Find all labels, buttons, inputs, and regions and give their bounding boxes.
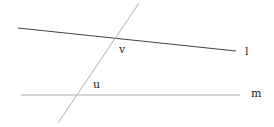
label-l: l xyxy=(245,46,249,57)
line-l xyxy=(18,28,236,51)
transversal-line xyxy=(58,3,139,123)
label-u: u xyxy=(93,79,100,90)
label-m: m xyxy=(251,88,261,99)
label-v: v xyxy=(119,44,125,55)
diagram-svg xyxy=(0,0,274,127)
diagram-canvas: l m v u xyxy=(0,0,274,127)
